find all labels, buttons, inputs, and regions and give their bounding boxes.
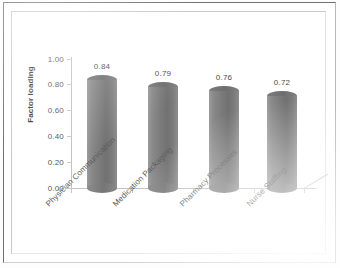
x-axis-tick xyxy=(71,188,72,193)
bar-physician-communication[interactable]: 0.84 xyxy=(87,75,117,193)
bar-value-label: 0.79 xyxy=(143,69,183,78)
y-axis-label: 0.60 xyxy=(30,106,64,115)
scanned-page: Factor loading 1.00 0.80 0.60 0.40 0.20 … xyxy=(0,0,340,268)
y-axis-label: 0.80 xyxy=(30,80,64,89)
bar-value-label: 0.76 xyxy=(204,73,244,82)
y-axis-title: Factor loading xyxy=(26,55,35,135)
y-axis-tick xyxy=(67,162,72,163)
y-axis-tick xyxy=(67,110,72,111)
cylinder-body xyxy=(87,80,117,188)
floor-depth-edge xyxy=(302,174,328,190)
cylinder-bottom-cap xyxy=(209,183,239,193)
bar-medication-packaging[interactable]: 0.79 xyxy=(148,82,178,193)
bar-value-label: 0.72 xyxy=(262,78,302,87)
y-axis-label: 0.20 xyxy=(30,158,64,167)
factor-loading-bar-chart: Factor loading 1.00 0.80 0.60 0.40 0.20 … xyxy=(14,14,326,254)
cylinder-bottom-cap xyxy=(87,183,117,193)
bar-value-label: 0.84 xyxy=(82,62,122,71)
y-axis-tick xyxy=(67,84,72,85)
y-axis-tick xyxy=(67,59,72,60)
y-axis-tick xyxy=(67,136,72,137)
y-axis-label: 1.00 xyxy=(30,55,64,64)
cylinder-bottom-cap xyxy=(148,183,178,193)
y-axis-label: 0.40 xyxy=(30,132,64,141)
y-axis-line xyxy=(71,57,72,189)
